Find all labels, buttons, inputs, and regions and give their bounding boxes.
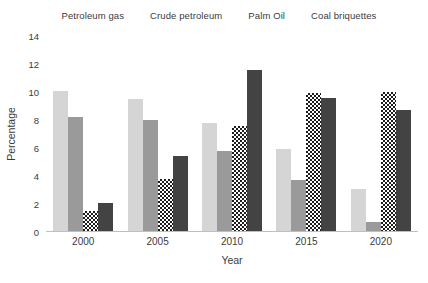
- chart-legend: Petroleum gas Crude petroleum Palm Oil C…: [0, 10, 428, 21]
- bar: [306, 93, 321, 232]
- y-tick-label: 10: [28, 87, 39, 98]
- bar-group: [53, 36, 113, 232]
- bar: [381, 92, 396, 232]
- legend-swatch-coal-briquettes-icon: [301, 12, 308, 19]
- x-axis-line: [46, 231, 418, 232]
- x-tick-label: 2020: [344, 236, 418, 247]
- bar: [83, 211, 98, 232]
- bar: [128, 99, 143, 232]
- bar: [98, 203, 113, 232]
- bar: [351, 189, 366, 232]
- plot-area: 02468101214: [46, 36, 418, 232]
- y-axis-title: Percentage: [4, 36, 18, 232]
- x-axis-ticks: 20002005201020152020: [46, 236, 418, 247]
- bar-groups: [46, 36, 418, 232]
- y-tick-label: 8: [34, 115, 39, 126]
- x-tick-label: 2015: [269, 236, 343, 247]
- bar: [202, 123, 217, 232]
- bar: [173, 156, 188, 232]
- bar-group: [202, 36, 262, 232]
- y-tick-label: 12: [28, 59, 39, 70]
- bar: [321, 98, 336, 232]
- legend-label-crude-petroleum: Crude petroleum: [150, 10, 222, 21]
- x-tick-label: 2005: [120, 236, 194, 247]
- legend-label-palm-oil: Palm Oil: [248, 10, 285, 21]
- x-tick-label: 2000: [46, 236, 120, 247]
- y-tick-label: 2: [34, 199, 39, 210]
- legend-label-petroleum-gas: Petroleum gas: [62, 10, 125, 21]
- bar-group: [128, 36, 188, 232]
- bar: [232, 126, 247, 232]
- y-tick-label: 4: [34, 171, 39, 182]
- legend-item-coal-briquettes: Coal briquettes: [301, 10, 376, 21]
- y-tick-label: 0: [34, 227, 39, 238]
- legend-swatch-crude-petroleum-icon: [140, 12, 147, 19]
- bar: [247, 70, 262, 232]
- bar-group: [276, 36, 336, 232]
- bar: [276, 149, 291, 232]
- x-axis-title: Year: [46, 254, 418, 266]
- x-tick-label: 2010: [195, 236, 269, 247]
- legend-swatch-petroleum-gas-icon: [52, 12, 59, 19]
- bar: [68, 117, 83, 232]
- bar-chart: Petroleum gas Crude petroleum Palm Oil C…: [0, 0, 428, 283]
- bar: [396, 110, 411, 232]
- bar-group: [351, 36, 411, 232]
- bar: [143, 120, 158, 232]
- y-tick-label: 6: [34, 143, 39, 154]
- bar: [158, 179, 173, 232]
- bar: [291, 180, 306, 232]
- legend-item-palm-oil: Palm Oil: [238, 10, 285, 21]
- legend-item-crude-petroleum: Crude petroleum: [140, 10, 222, 21]
- legend-swatch-palm-oil-icon: [238, 12, 245, 19]
- y-tick-label: 14: [28, 31, 39, 42]
- bar: [217, 151, 232, 232]
- legend-label-coal-briquettes: Coal briquettes: [311, 10, 376, 21]
- y-axis-title-text: Percentage: [5, 107, 17, 161]
- legend-item-petroleum-gas: Petroleum gas: [52, 10, 125, 21]
- bar: [53, 91, 68, 232]
